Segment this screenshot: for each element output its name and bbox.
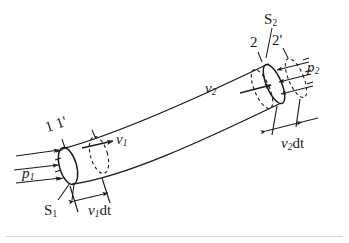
tube-body bbox=[62, 64, 279, 184]
label-displacement-2: v2dt bbox=[281, 136, 304, 152]
label-cross-section-1: S1 bbox=[44, 203, 57, 219]
station-2-back-ellipse bbox=[247, 67, 277, 112]
tube-upper-wall bbox=[62, 64, 268, 149]
label-velocity-2: v2 bbox=[205, 81, 217, 97]
page-rule bbox=[6, 236, 343, 237]
label-displacement-1: v1dt bbox=[88, 203, 111, 219]
label-velocity-1: v1 bbox=[116, 132, 128, 148]
station-2-ticks bbox=[258, 48, 288, 62]
label-pressure-2: p2 bbox=[307, 60, 319, 76]
displacement-2-dimension bbox=[266, 99, 318, 135]
label-station-2-prime: 2' bbox=[272, 33, 282, 48]
tube-lower-wall bbox=[73, 104, 279, 184]
velocity-2-arrow bbox=[240, 85, 271, 93]
label-station-2: 2 bbox=[250, 35, 258, 50]
figure-flow-tube-diagram: S2 2 2' p2 v2 v2dt 1 1' v1 p1 S1 v1dt bbox=[0, 0, 349, 243]
label-pressure-1: p1 bbox=[22, 166, 34, 182]
label-cross-section-2: S2 bbox=[264, 12, 277, 28]
